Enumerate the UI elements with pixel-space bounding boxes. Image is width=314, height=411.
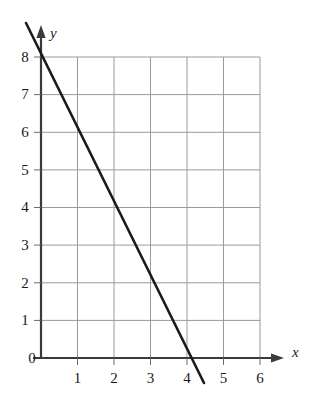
x-tick-label-3: 3 [143, 371, 158, 386]
axes [33, 25, 284, 363]
graph-canvas: 8 7 6 5 4 3 2 1 0 1 2 3 4 5 6 y x [0, 0, 314, 411]
y-tick-label-8: 8 [18, 50, 32, 65]
x-axis-label: x [292, 345, 299, 360]
y-axis-arrowhead [36, 25, 45, 38]
y-tick-label-1: 1 [18, 313, 32, 328]
y-tick-label-5: 5 [18, 163, 32, 178]
y-tick-label-4: 4 [18, 200, 32, 215]
x-tick-label-4: 4 [180, 371, 195, 386]
y-tick-label-7: 7 [18, 87, 32, 102]
origin-label: 0 [25, 351, 39, 366]
y-axis-label: y [50, 26, 57, 41]
x-axis-arrowhead [271, 353, 284, 362]
line-graph-series [26, 23, 204, 383]
grid-lines [41, 57, 260, 358]
coordinate-plane-svg [0, 0, 314, 411]
x-tick-label-2: 2 [107, 371, 122, 386]
y-tick-label-3: 3 [18, 238, 32, 253]
x-tick-label-5: 5 [216, 371, 231, 386]
y-tick-label-6: 6 [18, 125, 32, 140]
x-tick-label-1: 1 [70, 371, 85, 386]
x-tick-label-6: 6 [253, 371, 268, 386]
y-tick-label-2: 2 [18, 276, 32, 291]
